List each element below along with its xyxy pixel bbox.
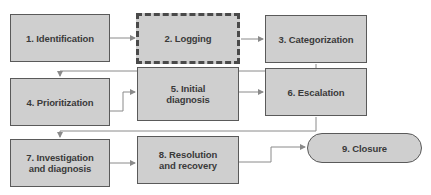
node-categorization: 3. Categorization [265, 15, 367, 63]
node-label: 2. Logging [160, 33, 215, 44]
node-label: 7. Investigation and diagnosis [22, 152, 98, 174]
node-label: 3. Categorization [275, 34, 358, 45]
incident-process-flowchart: 1. Identification 2. Logging 3. Categori… [0, 0, 431, 195]
node-label: 9. Closure [338, 143, 391, 154]
node-prioritization: 4. Prioritization [10, 78, 110, 126]
node-resolution-and-recovery: 8. Resolution and recovery [137, 136, 239, 184]
node-label: 1. Identification [22, 33, 98, 44]
node-initial-diagnosis: 5. Initial diagnosis [137, 67, 239, 121]
node-label: 4. Prioritization [23, 97, 98, 108]
node-label: 6. Escalation [284, 87, 349, 98]
node-investigation-and-diagnosis: 7. Investigation and diagnosis [10, 139, 110, 187]
node-logging: 2. Logging [136, 13, 240, 64]
node-label: 8. Resolution and recovery [155, 149, 221, 171]
node-identification: 1. Identification [10, 14, 110, 62]
edge-8-9 [239, 147, 305, 162]
node-escalation: 6. Escalation [265, 68, 367, 116]
node-closure: 9. Closure [307, 133, 422, 163]
edge-4-5 [110, 92, 135, 111]
node-label: 5. Initial diagnosis [162, 83, 213, 105]
